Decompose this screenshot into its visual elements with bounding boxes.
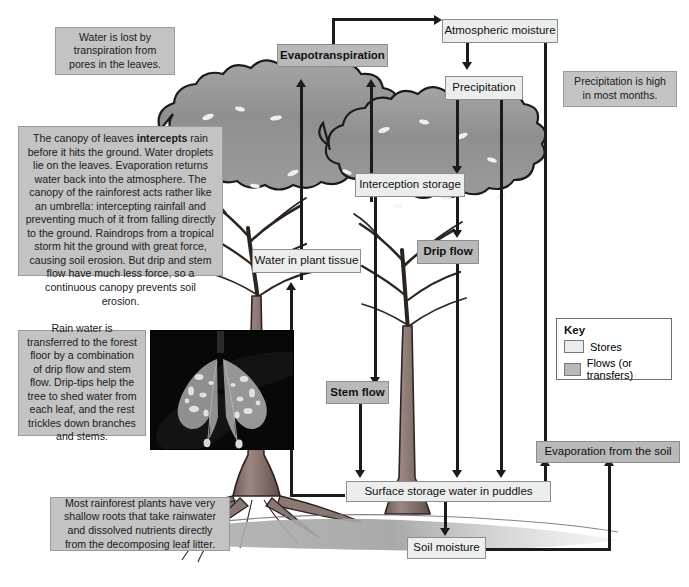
box-atmospheric-moisture-label: Atmospheric moisture [444,24,555,37]
arrowhead-dripflow-into-surface-storage [452,470,462,478]
box-interception-storage-label: Interception storage [359,178,461,191]
note-canopy-emphasis: intercepts [137,132,188,144]
arrowhead-into-atmospheric-moisture [434,15,442,25]
box-water-in-plant-tissue-label: Water in plant tissue [255,254,359,267]
connector-precip-to-surface [500,100,503,472]
connector-soil-moisture-run [486,548,611,551]
key-swatch-stores-icon [564,340,584,353]
connector-canopy-to-evapo-left [300,84,303,110]
box-evaporation-from-the-soil-label: Evaporation from the soil [544,445,671,458]
arrowhead-evapo-right [366,79,376,87]
arrowhead-precip-into-surface-storage [496,470,506,478]
box-stem-flow-label: Stem flow [330,386,384,399]
arrowhead-stemflow-into-surface-storage [355,470,365,478]
note-shallow-roots: Most rainforest plants have very shallow… [50,497,230,551]
arrowhead-into-drip-flow [452,230,462,238]
connector-dripflow-to-surface [456,264,459,472]
connector-surface-to-roots-run [290,494,345,497]
connector-precip-to-interception [456,100,459,168]
note-canopy-part2: rain before it hits the ground. Water dr… [26,132,216,307]
note-drip-tips: Rain water is transferred to the forest … [18,330,146,436]
note-precipitation-high-text: Precipitation is high in most months. [570,75,670,102]
note-drip-tips-text: Rain water is transferred to the forest … [25,322,139,444]
note-canopy-interception: The canopy of leaves intercepts rain bef… [18,126,223,276]
box-soil-moisture-label: Soil moisture [413,541,479,554]
connector-soil-moisture-riser [608,463,611,551]
box-surface-storage[interactable]: Surface storage water in puddles [346,481,551,502]
box-evaporation-from-the-soil[interactable]: Evaporation from the soil [536,441,680,463]
box-drip-flow-label: Drip flow [423,245,472,258]
box-stem-flow[interactable]: Stem flow [326,381,389,404]
connector-evapo-to-atmos-run [332,18,436,21]
box-surface-storage-label: Surface storage water in puddles [364,485,532,498]
box-drip-flow[interactable]: Drip flow [417,240,479,264]
key-swatch-flows-icon [564,363,581,376]
box-evapotranspiration[interactable]: Evapotranspiration [277,44,388,67]
arrowhead-into-water-in-plant-tissue [286,282,296,290]
note-transpiration: Water is lost by transpiration from pore… [55,27,175,75]
box-water-in-plant-tissue[interactable]: Water in plant tissue [252,249,361,273]
connector-atmos-to-precip [466,43,469,64]
arrowhead-into-soil-moisture [440,528,450,536]
connector-surface-to-soil-moisture [444,500,447,530]
connector-stemflow-to-surface [359,404,362,472]
box-evapotranspiration-label: Evapotranspiration [280,49,385,62]
box-interception-storage[interactable]: Interception storage [355,173,465,197]
key-row-flows: Flows (or transfers) [564,357,664,381]
key-title: Key [564,324,664,336]
diagram-canvas: Evapotranspiration Atmospheric moisture … [0,0,689,587]
key-label-stores: Stores [590,341,622,353]
arrowhead-evapo-left [296,79,306,87]
note-precipitation-high: Precipitation is high in most months. [563,71,677,107]
drip-tip-leaf-photo [150,330,294,450]
connector-interception-to-dripflow [456,197,459,232]
box-precipitation-label: Precipitation [452,81,515,94]
box-soil-moisture[interactable]: Soil moisture [407,537,486,559]
box-precipitation[interactable]: Precipitation [445,76,523,100]
connector-evapo-to-atmos-riser [332,18,335,46]
box-atmospheric-moisture[interactable]: Atmospheric moisture [442,19,558,43]
arrowhead-into-precipitation [462,62,472,70]
key-row-stores: Stores [564,340,664,353]
key-legend: Key Stores Flows (or transfers) [556,318,672,380]
note-canopy-part1: The canopy of leaves [33,132,137,144]
connector-soil-evap-to-atmos [544,33,547,443]
note-transpiration-text: Water is lost by transpiration from pore… [62,31,168,72]
note-shallow-roots-text: Most rainforest plants have very shallow… [57,497,223,551]
key-label-flows: Flows (or transfers) [587,357,664,381]
connector-interception-to-stemflow [374,197,377,379]
